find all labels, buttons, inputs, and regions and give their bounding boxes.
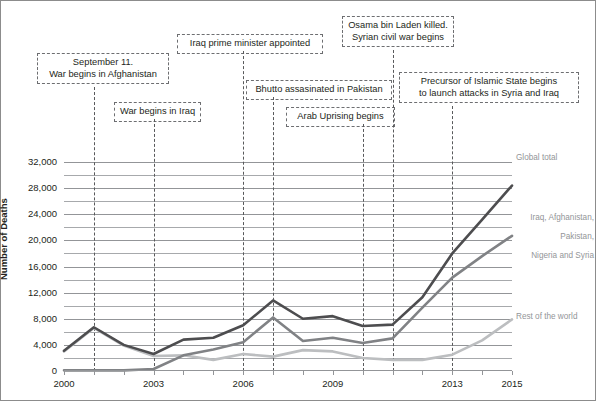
series-label-line-3: Nigeria and Syria [506,251,594,261]
annotation-line-2: Syrian civil war begins [348,32,448,44]
x-axis-tick [94,371,95,375]
y-axis-tick-label: 16,000 [28,262,57,272]
series-label-five-countries: Iraq, Afghanistan, Pakistan, Nigeria and… [506,203,594,270]
x-axis-tick [393,371,394,375]
x-axis-tick [213,371,214,375]
chart-frame: Number of Deaths September 11. War begin… [0,0,596,401]
series-label-line-1: Iraq, Afghanistan, [506,213,594,223]
series-label-line-2: Pakistan, [506,232,594,242]
x-axis-tick-label: 2000 [53,378,74,389]
annotation-line-1: Bhutto assasinated in Pakistan [252,84,386,96]
series-line-rest-of-the-world [64,319,512,359]
x-axis-tick [363,371,364,375]
annotation-line-1: Precursor of Islamic State begins [405,76,573,88]
annotation-line-2: to launch attacks in Syria and Iraq [405,88,573,100]
y-axis-tick-label: 12,000 [28,288,57,298]
x-axis-tick-label: 2003 [143,378,164,389]
annotation-osama-bin-laden: Osama bin Laden killed. Syrian civil war… [342,16,454,47]
x-axis-tick [452,371,453,375]
y-axis-tick-label: 28,000 [28,183,57,193]
y-axis-tick-label: 8,000 [33,314,57,324]
annotation-line-1: Osama bin Laden killed. [348,20,448,32]
annotation-line-2: War begins in Afghanistan [43,69,163,81]
series-lines [64,149,512,371]
x-axis-tick [512,371,513,375]
x-axis-tick [333,371,334,375]
annotation-line-1: Iraq prime minister appointed [183,38,317,50]
x-axis-tick [422,371,423,375]
x-axis-tick-label: 2006 [233,378,254,389]
x-axis-tick-label: 2013 [442,378,463,389]
y-axis-tick-label: 4,000 [33,340,57,350]
annotation-arab-uprising: Arab Uprising begins [286,107,395,127]
annotation-bhutto-assassinated: Bhutto assasinated in Pakistan [246,80,392,100]
series-label-rest-of-world: Rest of the world [516,312,577,322]
annotation-war-begins-in-iraq: War begins in Iraq [114,102,201,122]
plot-area: 04,0008,00012,00016,00020,00024,00028,00… [64,149,512,371]
annotation-islamic-state-precursor: Precursor of Islamic State begins to lau… [399,72,579,103]
annotation-line-1: September 11. [43,57,163,69]
x-axis-tick-label: 2015 [501,378,522,389]
x-axis-tick [243,371,244,375]
annotation-iraq-prime-minister: Iraq prime minister appointed [177,34,323,54]
series-line-iraq-afghanistan-pakistan-nigeria-and-syria [64,236,512,371]
x-axis-tick [64,371,65,375]
x-axis-tick [303,371,304,375]
annotation-september-11: September 11. War begins in Afghanistan [37,53,169,84]
x-axis-tick [183,371,184,375]
y-axis-tick-label: 20,000 [28,236,57,246]
y-axis-tick-label: 24,000 [28,210,57,220]
annotation-line-1: Arab Uprising begins [292,111,389,123]
annotation-line-1: War begins in Iraq [120,106,195,118]
series-label-global-total: Global total [516,153,557,163]
y-axis-title: Number of Deaths [0,198,9,280]
y-axis-tick-label: 32,000 [28,157,57,167]
x-axis-tick [154,371,155,375]
x-axis-tick [482,371,483,375]
x-axis-tick [273,371,274,375]
x-axis-line [64,370,512,371]
x-axis-tick-label: 2009 [322,378,343,389]
x-axis-tick [124,371,125,375]
y-axis-tick-label: 0 [52,366,57,376]
